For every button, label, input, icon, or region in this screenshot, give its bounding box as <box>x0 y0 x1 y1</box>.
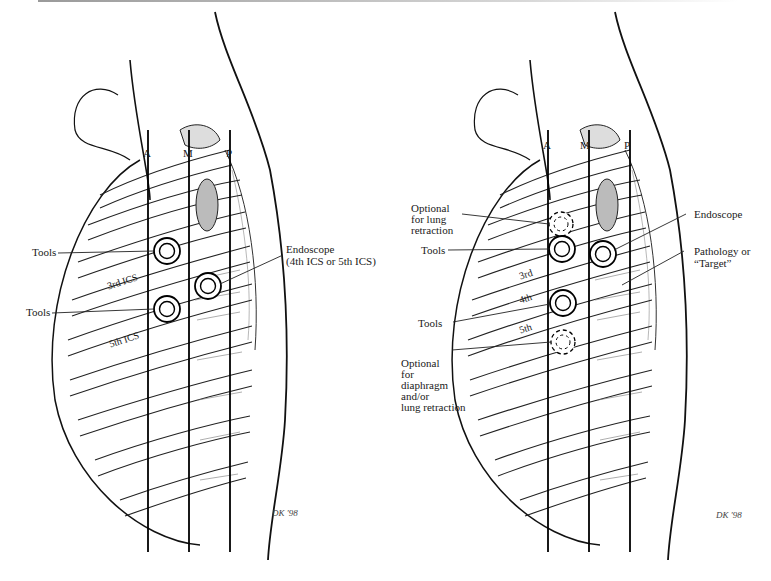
axis-label-posterior-left: P <box>226 148 232 159</box>
label-tools-upper-left: Tools <box>32 246 56 258</box>
label-optional-diaphragm-5: lung retraction <box>401 401 465 413</box>
axis-label-anterior-left: A <box>143 148 151 159</box>
left-ports <box>154 238 221 322</box>
artist-signature-right: DK '98 <box>716 510 742 520</box>
label-endoscope-left: Endoscope <box>286 243 334 255</box>
artist-signature-left: DK '98 <box>272 508 298 518</box>
label-endoscope-right: Endoscope <box>694 208 742 220</box>
thorax-illustration <box>0 0 771 581</box>
axis-label-mid-left: M <box>183 148 193 159</box>
axis-label-mid-right: M <box>580 140 590 151</box>
right-ports <box>549 212 616 354</box>
label-tools-lower-right: Tools <box>418 317 442 329</box>
axis-label-posterior-right: P <box>624 140 630 151</box>
label-endoscope-ics-left: (4th ICS or 5th ICS) <box>286 255 376 267</box>
axis-label-anterior-right: A <box>543 140 551 151</box>
label-pathology-1: Pathology or <box>694 245 751 257</box>
label-tools-lower-left: Tools <box>26 306 50 318</box>
label-optional-lung-3: retraction <box>411 224 453 236</box>
label-tools-upper-right: Tools <box>421 244 445 256</box>
label-pathology-2: “Target” <box>694 257 732 269</box>
